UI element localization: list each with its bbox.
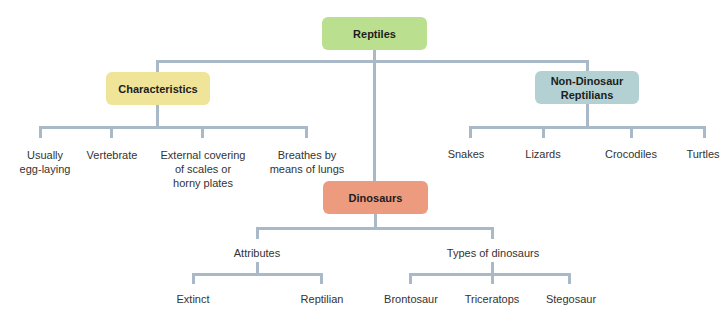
node-non-dinosaur-reptilians: Non-Dinosaur Reptilians (535, 71, 639, 104)
connector-nd-child-1 (469, 126, 472, 138)
leaf-text-line: Vertebrate (87, 148, 138, 162)
leaf-text-line: Usually (20, 148, 71, 162)
leaf-external-covering: External covering of scales or horny pla… (161, 148, 246, 190)
connector-char-child-1 (39, 126, 42, 138)
connector-root-branch (156, 60, 589, 63)
connector-root-trunk (373, 49, 376, 182)
leaf-extinct: Extinct (176, 292, 209, 306)
connector-attr-child-1 (192, 273, 195, 284)
node-characteristics-label: Characteristics (118, 82, 198, 96)
leaf-text-line: horny plates (161, 176, 246, 190)
leaf-lizards: Lizards (525, 147, 560, 161)
node-reptiles-label: Reptiles (353, 27, 396, 41)
label-types-of-dinosaurs: Types of dinosaurs (447, 246, 539, 260)
node-non-dinosaur-label-line2: Reptilians (561, 88, 614, 102)
connector-types-child-3 (568, 273, 571, 284)
connector-non-dinosaur-down (586, 103, 589, 127)
node-non-dinosaur-label-line1: Non-Dinosaur (551, 74, 624, 88)
connector-non-dinosaur-bar (469, 126, 706, 129)
label-attributes: Attributes (234, 246, 280, 260)
connector-to-types (491, 227, 494, 239)
leaf-snakes: Snakes (448, 147, 485, 161)
connector-characteristics-bar (39, 126, 308, 129)
connector-characteristics-down (156, 104, 159, 127)
leaf-crocodiles: Crocodiles (605, 147, 657, 161)
connector-char-child-4 (305, 126, 308, 138)
leaf-vertebrate: Vertebrate (87, 148, 138, 162)
leaf-usually-egg-laying: Usually egg-laying (20, 148, 71, 176)
connector-types-bar (409, 273, 571, 276)
leaf-brontosaur: Brontosaur (384, 292, 438, 306)
leaf-text-line: of scales or (161, 162, 246, 176)
leaf-text-line: egg-laying (20, 162, 71, 176)
connector-nd-child-2 (542, 126, 545, 138)
leaf-text-line: Breathes by (270, 148, 345, 162)
connector-dinosaurs-bar (256, 227, 494, 230)
connector-attr-child-2 (320, 273, 323, 284)
node-reptiles: Reptiles (322, 17, 427, 50)
leaf-triceratops: Triceratops (465, 292, 520, 306)
connector-types-child-1 (409, 273, 412, 284)
connector-nd-child-4 (703, 126, 706, 138)
connector-char-child-2 (110, 126, 113, 138)
leaf-text-line: means of lungs (270, 162, 345, 176)
node-dinosaurs: Dinosaurs (323, 181, 428, 214)
leaf-reptilian: Reptilian (301, 292, 344, 306)
connector-to-attributes (256, 227, 259, 239)
leaf-breathes-by-lungs: Breathes by means of lungs (270, 148, 345, 176)
leaf-text-line: External covering (161, 148, 246, 162)
leaf-turtles: Turtles (686, 147, 719, 161)
connector-nd-child-3 (630, 126, 633, 138)
connector-char-child-3 (201, 126, 204, 138)
node-characteristics: Characteristics (106, 72, 210, 105)
node-dinosaurs-label: Dinosaurs (349, 191, 403, 205)
connector-attributes-bar (192, 273, 323, 276)
connector-dinosaurs-down (374, 213, 377, 228)
leaf-stegosaur: Stegosaur (546, 292, 596, 306)
